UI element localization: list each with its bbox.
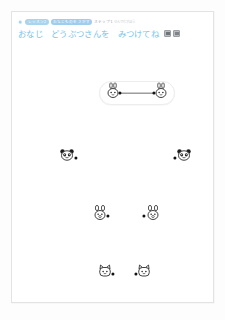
panda-right-icon[interactable] <box>176 148 192 166</box>
question-icon[interactable] <box>173 30 180 37</box>
page-title: おなじ どうぶつさんを みつけてね <box>18 27 159 39</box>
connector-line[interactable] <box>120 93 154 94</box>
page-background: レッスン2 おなじものをさがす ステップ1 せんでむすぼう おなじ どうぶつさん… <box>0 0 225 320</box>
title-button-group <box>164 30 180 37</box>
connector-port[interactable] <box>74 156 77 159</box>
breadcrumb-step: ステップ1 <box>94 19 112 24</box>
puzzle-board[interactable] <box>12 40 213 302</box>
breadcrumb-badge-lesson[interactable]: レッスン2 <box>25 19 49 25</box>
breadcrumb-trailing: せんでむすぼう <box>114 19 135 24</box>
connector-port[interactable] <box>106 214 109 217</box>
bear-left-icon[interactable] <box>93 205 108 225</box>
cat-left-icon[interactable] <box>98 264 112 282</box>
cat-right-icon[interactable] <box>137 264 151 282</box>
gear-icon[interactable] <box>17 19 23 25</box>
panda-left-icon[interactable] <box>59 148 75 166</box>
speaker-icon[interactable] <box>164 30 171 37</box>
breadcrumb: レッスン2 おなじものをさがす ステップ1 せんでむすぼう <box>17 17 209 26</box>
connector-port[interactable] <box>111 272 114 275</box>
rabbit-right-icon[interactable] <box>154 83 169 104</box>
title-row: おなじ どうぶつさんを みつけてね <box>18 26 209 40</box>
lesson-card: レッスン2 おなじものをさがす ステップ1 せんでむすぼう おなじ どうぶつさん… <box>11 11 214 303</box>
bear-right-icon[interactable] <box>146 205 161 225</box>
breadcrumb-badge-topic[interactable]: おなじものをさがす <box>51 19 93 25</box>
